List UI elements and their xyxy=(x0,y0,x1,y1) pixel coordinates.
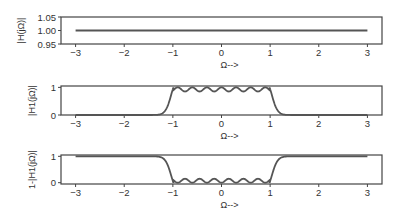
x-tick-label: 3 xyxy=(365,118,370,129)
axes-frame xyxy=(61,86,382,115)
x-tick-label: 1 xyxy=(267,187,272,198)
axes-frame xyxy=(61,155,382,184)
x-axis-label: Ω--> xyxy=(221,60,239,70)
subplot-1: −3−2−101230.951.001.05|H(jΩ)|Ω--> xyxy=(16,12,382,71)
x-tick-label: 3 xyxy=(365,47,370,58)
x-tick-label: −2 xyxy=(119,187,130,198)
subplot-3: −3−2−10123011-|H1(jΩ)|Ω--> xyxy=(27,150,382,210)
x-tick-label: 0 xyxy=(219,47,224,58)
x-tick-label: −2 xyxy=(119,118,130,129)
x-axis-label: Ω--> xyxy=(221,200,239,210)
x-tick-label: −1 xyxy=(167,187,178,198)
x-tick-label: 2 xyxy=(316,118,321,129)
chart-figure: −3−2−101230.951.001.05|H(jΩ)|Ω-->−3−2−10… xyxy=(0,0,399,223)
y-axis-label: |H1(jΩ)| xyxy=(27,85,37,116)
x-tick-label: 0 xyxy=(219,187,224,198)
x-axis-label: Ω--> xyxy=(221,131,239,141)
series-line xyxy=(76,156,368,182)
x-tick-label: 3 xyxy=(365,187,370,198)
x-tick-label: 1 xyxy=(267,47,272,58)
x-tick-label: −3 xyxy=(70,187,81,198)
y-tick-label: 1 xyxy=(51,151,56,162)
y-tick-label: 1.05 xyxy=(38,12,57,23)
x-tick-label: 0 xyxy=(219,118,224,129)
x-tick-label: −1 xyxy=(167,47,178,58)
x-tick-label: 2 xyxy=(316,187,321,198)
y-tick-label: 1 xyxy=(51,82,56,93)
series-line xyxy=(76,87,368,115)
x-tick-label: −1 xyxy=(167,118,178,129)
x-tick-label: −3 xyxy=(70,118,81,129)
x-tick-label: 1 xyxy=(267,118,272,129)
x-tick-label: 2 xyxy=(316,47,321,58)
y-axis-label: 1-|H1(jΩ)| xyxy=(27,150,37,189)
y-tick-label: 0 xyxy=(51,110,56,121)
y-axis-label: |H(jΩ)| xyxy=(16,18,26,44)
x-tick-label: −2 xyxy=(119,47,130,58)
y-tick-label: 0.95 xyxy=(38,39,57,50)
subplot-2: −3−2−1012301|H1(jΩ)|Ω--> xyxy=(27,82,382,141)
x-tick-label: −3 xyxy=(70,47,81,58)
y-tick-label: 0 xyxy=(51,177,56,188)
y-tick-label: 1.00 xyxy=(38,25,57,36)
